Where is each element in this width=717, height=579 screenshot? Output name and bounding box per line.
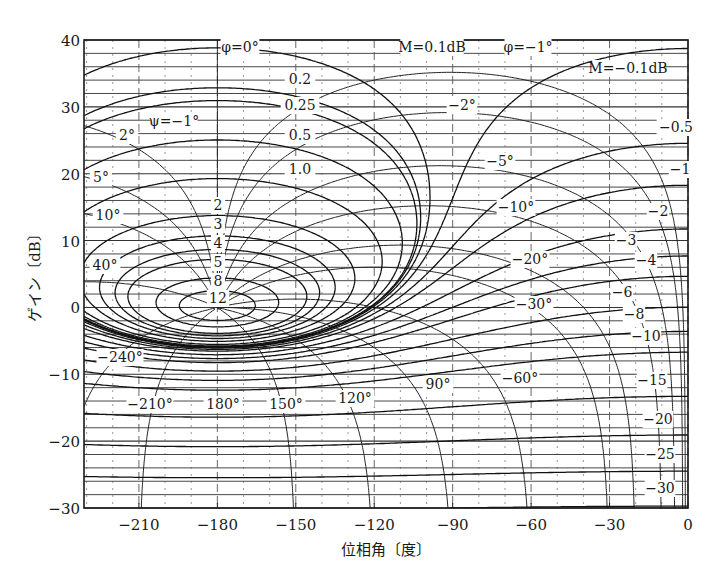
x-tick-label: −120 [354, 516, 395, 534]
n-contour-label: −20° [512, 251, 549, 267]
phase-contours [84, 40, 685, 508]
m-contour-label: −25 [645, 446, 675, 462]
n-contour-label: 120° [338, 390, 372, 406]
x-tick-label: −30 [594, 516, 626, 534]
m-contour-label: M=0.1dB [398, 39, 466, 55]
m-contour-label: 8 [214, 273, 223, 289]
m-contour-label: 1.0 [289, 161, 311, 177]
m-contour-label: −8 [624, 306, 645, 322]
x-tick-label: −60 [515, 516, 547, 534]
m-contour-label: −3 [616, 232, 637, 248]
n-contour-label: 90° [426, 376, 451, 392]
n-contour-label: 2° [119, 127, 135, 143]
y-tick-label: −20 [48, 433, 80, 451]
n-contour-label: 150° [269, 396, 303, 412]
x-tick-label: −180 [197, 516, 238, 534]
m-contour-label: 12 [209, 290, 227, 306]
x-tick-label: −150 [275, 516, 316, 534]
m-contour-label: −1 [670, 161, 691, 177]
vertical-gridlines [87, 40, 688, 508]
m-contour-label: −30 [645, 480, 675, 496]
m-contour [84, 352, 688, 390]
m-contour-label: 3 [214, 216, 223, 232]
n-contour-label: −210° [127, 396, 172, 412]
nichols-chart: −210−180−150−120−90−60−300 −30−20−100102… [0, 0, 717, 579]
y-tick-label: 10 [61, 233, 80, 251]
n-contour [217, 206, 661, 508]
m-contour-label: M=−0.1dB [588, 60, 667, 76]
n-contour-label: −2° [448, 97, 476, 113]
m-contour-label: 0.2 [289, 71, 311, 87]
m-contour-label: −20 [643, 411, 673, 427]
m-contour-label: −10 [631, 328, 661, 344]
m-contour [84, 140, 402, 346]
n-contour-label: −240° [97, 349, 142, 365]
m-contour-label: 0.25 [284, 97, 315, 113]
m-contour [84, 471, 688, 478]
x-tick-label: 0 [683, 516, 693, 534]
y-tick-label: −10 [48, 366, 80, 384]
y-axis-ticks: −30−20−10010203040 [48, 32, 80, 518]
m-contour-label: −15 [637, 372, 667, 388]
y-tick-label: 40 [61, 32, 80, 50]
m-contour-label: 4 [214, 235, 223, 251]
x-axis-title: 位相角〔度〕 [341, 541, 431, 559]
m-contour-label: 0.5 [289, 127, 311, 143]
y-tick-label: 30 [61, 99, 80, 117]
n-contour-label: −60° [502, 370, 539, 386]
m-contour [84, 185, 688, 351]
n-contour-label: φ=−1° [503, 39, 552, 55]
m-contour-label: −6 [612, 284, 633, 300]
y-axis-title: ゲイン〔dB〕 [26, 226, 44, 322]
horizontal-gridlines [84, 40, 688, 508]
n-contour-label: −5° [486, 153, 514, 169]
m-contour-label: 2 [214, 197, 223, 213]
n-contour-label: φ=0° [221, 39, 258, 55]
plot-frame [84, 40, 688, 508]
m-contour-label: −2 [648, 203, 669, 219]
y-tick-label: 20 [61, 166, 80, 184]
n-contour-label: −30° [516, 296, 553, 312]
n-contour-label: −10° [498, 199, 535, 215]
y-tick-label: 0 [70, 299, 80, 317]
n-contour-label: 40° [93, 257, 118, 273]
x-tick-label: −90 [437, 516, 469, 534]
x-tick-label: −210 [118, 516, 159, 534]
y-tick-label: −30 [48, 500, 80, 518]
m-contour-label: 5 [214, 254, 223, 270]
m-contour-label: −4 [636, 252, 657, 268]
n-contour-label: 180° [206, 396, 240, 412]
m-contour-label: −0.5 [659, 119, 693, 135]
n-contour-label: 5° [93, 169, 109, 185]
n-contour-label: ψ=−1° [149, 113, 199, 129]
n-contour-label: 10° [96, 207, 121, 223]
